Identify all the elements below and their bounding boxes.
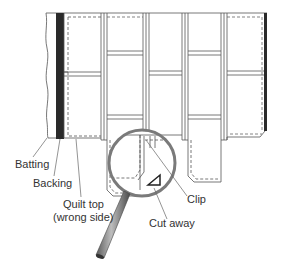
horizontal-sashing: [64, 51, 264, 119]
batting-label: Batting: [15, 158, 49, 170]
cut-away-leader: [154, 188, 167, 219]
seam-lines: [107, 17, 262, 134]
backing-layer: [56, 13, 64, 139]
quilt-diagram: [0, 0, 281, 277]
vertical-sashing: [101, 13, 227, 140]
quilt-top-leader: [76, 139, 81, 197]
right-edge-backing: [264, 13, 267, 131]
batting-layer: [46, 13, 267, 138]
batting-leader: [33, 138, 47, 157]
quilt-top-label-line1: Quilt top: [63, 198, 104, 210]
backing-label: Backing: [33, 177, 72, 189]
cut-away-label: Cut away: [149, 217, 195, 229]
quilt-top-label-line2: (wrong side): [53, 211, 114, 223]
backing-leader: [54, 139, 60, 176]
clip-label: Clip: [187, 193, 206, 205]
quilt-top-blocks: [64, 13, 101, 138]
